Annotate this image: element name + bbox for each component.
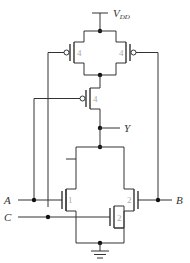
input-c-label: C [4,211,12,223]
pmos-middle-size: 4 [93,94,98,104]
pmos-top-right: 4 [100,31,158,200]
input-b-label: B [176,194,183,206]
vdd-label: VDD [113,7,130,21]
pmos-middle: 4 [34,75,100,200]
input-a: A [3,194,62,206]
input-a-label: A [3,194,11,206]
nmos-left: 1 [62,147,100,243]
input-c: C [4,211,50,223]
vdd-supply: VDD [92,7,130,31]
nmos-left-size: 1 [68,195,73,205]
nmos-bottom-size: 2 [117,213,122,223]
pmos-top-left-size: 4 [77,48,82,58]
nmos-right-size: 2 [127,195,132,205]
nmos-bottom: 2 [48,206,124,243]
pmos-top-right-size: 4 [119,48,124,58]
output-label: Y [124,122,132,134]
input-b: B [156,194,183,206]
output-y: Y [98,122,132,134]
nmos-right: 2 [100,147,158,228]
cmos-schematic: VDD 4 4 4 Y [0,0,190,263]
pmos-top-left: 4 [48,31,100,207]
